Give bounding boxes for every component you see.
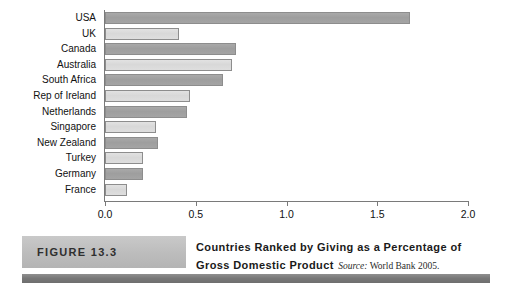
bar-australia bbox=[105, 59, 232, 71]
bar-netherlands bbox=[105, 106, 187, 118]
bar-turkey bbox=[105, 152, 143, 164]
category-label: Germany bbox=[55, 169, 96, 179]
x-tick-label: 1.5 bbox=[370, 208, 385, 220]
caption-source: Source: World Bank 2005. bbox=[338, 261, 439, 271]
x-tick bbox=[287, 202, 288, 206]
figure-caption: FIGURE 13.3 Countries Ranked by Giving a… bbox=[0, 236, 512, 293]
category-label: USA bbox=[75, 13, 96, 23]
plot-area bbox=[105, 12, 468, 200]
source-label: Source: bbox=[338, 261, 367, 271]
bar-usa bbox=[105, 12, 410, 24]
category-label: UK bbox=[82, 29, 96, 39]
y-axis-category-labels: USAUKCanadaAustraliaSouth AfricaRep of I… bbox=[0, 12, 100, 200]
category-label: Australia bbox=[57, 60, 96, 70]
bar-south-africa bbox=[105, 74, 223, 86]
bar-singapore bbox=[105, 121, 156, 133]
bar-rep-of-ireland bbox=[105, 90, 190, 102]
bar-germany bbox=[105, 168, 143, 180]
bar-new-zealand bbox=[105, 137, 158, 149]
caption-text-block: Countries Ranked by Giving as a Percenta… bbox=[196, 237, 496, 273]
x-tick bbox=[468, 202, 469, 206]
category-label: Turkey bbox=[66, 153, 96, 163]
category-label: South Africa bbox=[42, 75, 96, 85]
caption-rule bbox=[22, 274, 490, 283]
figure-number-badge: FIGURE 13.3 bbox=[22, 236, 186, 268]
x-tick-label: 2.0 bbox=[461, 208, 476, 220]
category-label: Singapore bbox=[50, 122, 96, 132]
bar-uk bbox=[105, 28, 179, 40]
category-label: France bbox=[65, 185, 96, 195]
figure-number-label: FIGURE 13.3 bbox=[22, 246, 117, 258]
category-label: Netherlands bbox=[42, 107, 96, 117]
figure-container: USAUKCanadaAustraliaSouth AfricaRep of I… bbox=[0, 0, 512, 293]
bar-france bbox=[105, 184, 127, 196]
x-tick bbox=[377, 202, 378, 206]
bar-chart: USAUKCanadaAustraliaSouth AfricaRep of I… bbox=[0, 0, 512, 232]
x-tick-label: 0.5 bbox=[188, 208, 203, 220]
category-label: Rep of Ireland bbox=[33, 91, 96, 101]
bar-canada bbox=[105, 43, 236, 55]
x-tick-label: 0.0 bbox=[98, 208, 113, 220]
x-tick-label: 1.0 bbox=[279, 208, 294, 220]
x-tick bbox=[196, 202, 197, 206]
category-label: Canada bbox=[61, 44, 96, 54]
x-tick bbox=[105, 202, 106, 206]
category-label: New Zealand bbox=[37, 138, 96, 148]
source-value: World Bank 2005. bbox=[367, 261, 439, 271]
